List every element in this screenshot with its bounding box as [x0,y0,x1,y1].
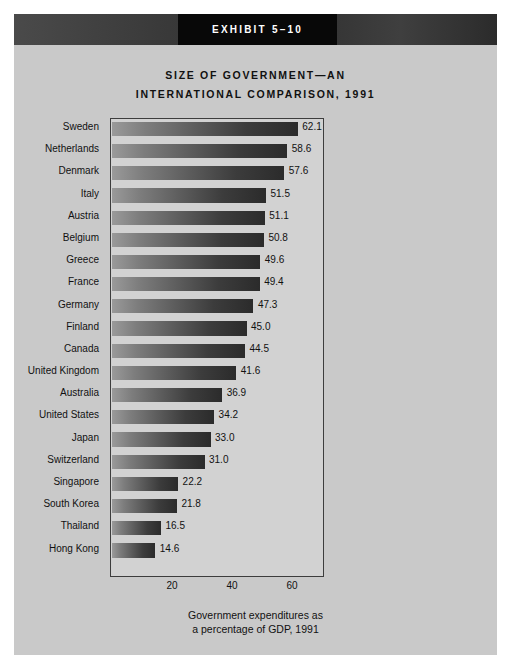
category-label: Netherlands [45,143,99,154]
bar-row: Japan33.0 [110,429,324,451]
bar-value-label: 62.1 [302,121,321,132]
bar-value-label: 31.0 [209,454,228,465]
bar-value-label: 21.8 [181,498,200,509]
bar-value-label: 14.6 [160,543,179,554]
x-tick-label: 40 [226,580,237,591]
bar [112,166,285,180]
category-label: United Kingdom [28,365,99,376]
bar-row: Finland45.0 [110,318,324,340]
bar-row: Netherlands58.6 [110,140,324,162]
bar-row: Denmark57.6 [110,162,324,184]
bar-value-label: 34.2 [219,409,238,420]
bar [112,344,246,358]
category-label: South Korea [43,498,99,509]
bar [112,144,288,158]
bar [112,543,156,557]
bar-row: Singapore22.2 [110,473,324,495]
x-axis-ticks: 204060 [110,580,324,596]
category-label: France [68,276,99,287]
bar [112,455,205,469]
bar-value-label: 41.6 [241,365,260,376]
category-label: Singapore [53,476,99,487]
bar-value-label: 49.6 [265,254,284,265]
category-label: Belgium [63,232,99,243]
exhibit-page: EXHIBIT 5–10 SIZE OF GOVERNMENT—AN INTER… [14,14,497,655]
bar-row: France49.4 [110,273,324,295]
bar-row: Switzerland31.0 [110,451,324,473]
category-label: Germany [58,299,99,310]
category-label: Denmark [58,165,99,176]
chart-caption: Government expenditures as a percentage … [14,608,497,636]
bar [112,366,237,380]
bar [112,432,211,446]
bar [112,477,179,491]
bar [112,388,223,402]
bar-row: South Korea21.8 [110,495,324,517]
bar [112,233,264,247]
bar [112,521,162,535]
bar [112,410,215,424]
bar-row: Austria51.1 [110,207,324,229]
category-label: Greece [66,254,99,265]
bar-value-label: 47.3 [258,299,277,310]
category-label: Italy [81,188,99,199]
x-tick-label: 20 [166,580,177,591]
bar [112,211,265,225]
category-label: Japan [72,432,99,443]
bar-row: Germany47.3 [110,296,324,318]
category-label: Canada [64,343,99,354]
bar [112,277,260,291]
bar-value-label: 22.2 [183,476,202,487]
chart-caption-line-2: a percentage of GDP, 1991 [14,622,497,636]
bar-row: Sweden62.1 [110,118,324,140]
bar-row: Belgium50.8 [110,229,324,251]
bar [112,255,261,269]
bar-value-label: 57.6 [289,165,308,176]
bar [112,321,247,335]
category-label: Austria [68,210,99,221]
bar-value-label: 36.9 [227,387,246,398]
bar-row: Italy51.5 [110,185,324,207]
bar-row: Australia36.9 [110,384,324,406]
bar-row: United States34.2 [110,406,324,428]
category-label: United States [39,409,99,420]
category-label: Sweden [63,121,99,132]
bar-value-label: 16.5 [166,520,185,531]
bar-chart: Sweden62.1Netherlands58.6Denmark57.6Ital… [14,14,497,655]
bar-row: United Kingdom41.6 [110,362,324,384]
x-tick-label: 60 [286,580,297,591]
bar-row: Thailand16.5 [110,517,324,539]
category-label: Switzerland [47,454,99,465]
bar-row: Canada44.5 [110,340,324,362]
chart-caption-line-1: Government expenditures as [14,608,497,622]
bar [112,299,254,313]
bar [112,122,298,136]
category-label: Finland [66,321,99,332]
category-label: Thailand [61,520,99,531]
bar-rows: Sweden62.1Netherlands58.6Denmark57.6Ital… [110,118,324,577]
bar [112,499,177,513]
bar-value-label: 50.8 [268,232,287,243]
category-label: Hong Kong [49,543,99,554]
bar-value-label: 49.4 [264,276,283,287]
bar [112,188,267,202]
category-label: Australia [60,387,99,398]
bar-value-label: 51.1 [269,210,288,221]
bar-value-label: 33.0 [215,432,234,443]
bar-value-label: 45.0 [251,321,270,332]
bar-value-label: 44.5 [250,343,269,354]
bar-value-label: 58.6 [292,143,311,154]
bar-row: Greece49.6 [110,251,324,273]
bar-value-label: 51.5 [271,188,290,199]
bar-row: Hong Kong14.6 [110,540,324,562]
